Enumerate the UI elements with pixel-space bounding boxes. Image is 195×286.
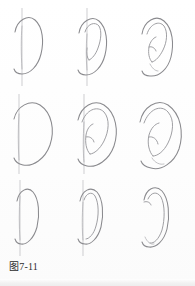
helix-inner-rim [84,193,98,239]
ear-drawing-1 [2,6,67,91]
ear-drawing-5 [65,92,130,177]
ear-drawing-9 [128,178,193,263]
helix-outline [78,189,103,244]
ear-drawing-3 [128,6,193,91]
helix-outline [142,18,173,76]
helix-outline [14,103,52,165]
antihelix-curve [144,108,173,156]
lobe-crease [150,64,158,71]
ear-cell-3-step-3 [128,6,193,91]
concha-edge [148,123,159,156]
ear-cell-6-step-3 [128,92,193,177]
figure-caption: 图7-11 [9,260,38,273]
tragus-shape [149,137,158,144]
ear-cell-5-step-2 [65,92,130,177]
ear-cell-1-step-1 [2,6,67,91]
ear-drawing-7 [2,178,67,263]
helix-outline [78,19,107,75]
ear-drawing-6 [128,92,193,177]
tragus-shape [149,47,156,51]
helix-outline [142,188,169,247]
ear-cell-4-step-1 [2,92,67,177]
antihelix-curve [85,24,101,60]
helix-root-notch [144,202,151,205]
ear-cell-7-step-1 [2,178,67,263]
figure-page: 图7-11 [0,0,195,286]
helix-inner-rim [148,193,164,243]
helix-outline [14,18,43,74]
ear-drawing-2 [65,6,130,91]
ear-study-grid [0,0,195,255]
page-bottom-band [0,279,195,286]
helix-outline [15,189,39,244]
ear-cell-2-step-2 [65,6,130,91]
ear-drawing-8 [65,178,130,263]
lobe-crease [152,158,164,164]
ear-drawing-4 [2,92,67,177]
helix-outline [140,103,181,169]
ear-cell-9-step-3 [128,178,193,263]
tragus-shape [86,137,94,142]
ear-cell-8-step-2 [65,178,130,263]
